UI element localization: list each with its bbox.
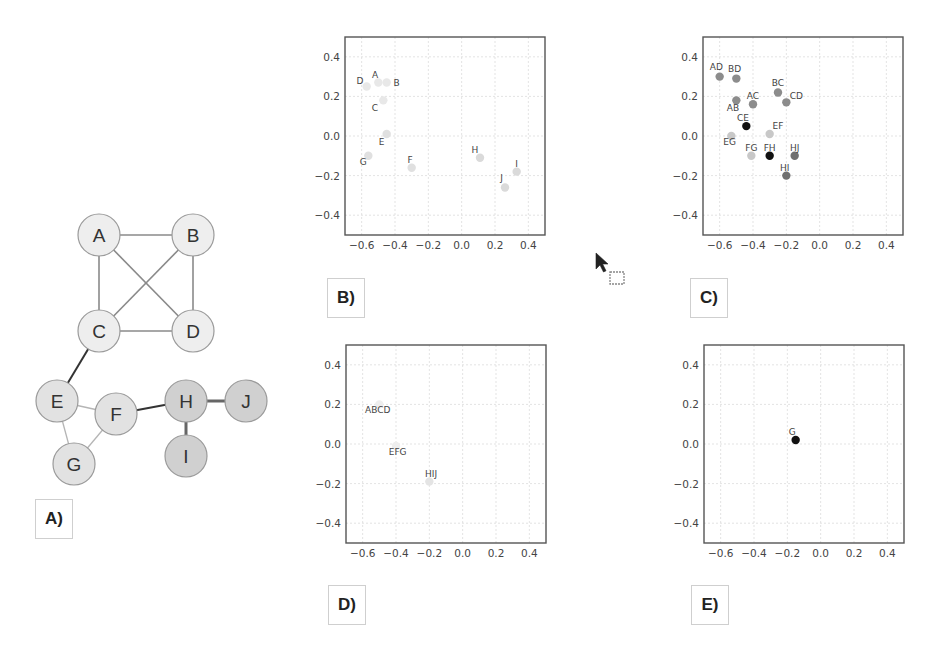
y-tick-label: 0.2 — [323, 90, 340, 102]
graph-node-d: D — [172, 310, 214, 352]
data-point-i: I — [512, 159, 520, 176]
data-point-label: E — [379, 137, 385, 147]
data-point-label: CD — [790, 91, 803, 101]
arrow-cursor-icon — [594, 252, 630, 286]
x-tick-label: −0.4 — [740, 239, 766, 251]
data-point-ac: AC — [747, 91, 759, 108]
data-point-label: EFG — [389, 447, 407, 457]
data-point-label: H — [472, 145, 479, 155]
y-tick-label: 0.0 — [324, 438, 341, 450]
data-point-label: ABCD — [365, 405, 390, 415]
graph-node-label: G — [67, 454, 82, 475]
graph-node-i: I — [165, 435, 207, 477]
data-point-fh: FH — [764, 143, 776, 160]
graph-diagram: ABCDEFGHIJ — [0, 0, 300, 520]
graph-node-label: D — [186, 321, 200, 342]
x-tick-label: 0.0 — [453, 239, 470, 251]
graph-node-g: G — [53, 443, 95, 485]
data-point-g: G — [789, 427, 800, 444]
y-tick-label: 0.0 — [323, 130, 340, 142]
data-point-abcd: ABCD — [365, 400, 390, 415]
x-tick-label: 0.2 — [488, 547, 505, 559]
scatter-plot-b: −0.6−0.4−0.20.00.20.40.40.20.0−0.2−0.4AB… — [290, 25, 560, 265]
data-point-ce: CE — [737, 113, 751, 130]
data-point-hi: HI — [780, 163, 791, 180]
data-point-label: AD — [710, 62, 723, 72]
data-point-b: B — [382, 78, 399, 88]
y-tick-label: 0.4 — [324, 359, 341, 371]
graph-node-label: I — [183, 446, 188, 467]
x-tick-label: 0.4 — [520, 239, 537, 251]
x-tick-label: −0.6 — [350, 547, 376, 559]
data-point-label: G — [360, 157, 367, 167]
data-point-label: I — [515, 159, 518, 169]
x-tick-label: 0.0 — [811, 239, 828, 251]
graph-node-label: A — [93, 225, 106, 246]
x-tick-label: −0.2 — [416, 239, 442, 251]
graph-node-h: H — [165, 380, 207, 422]
data-point-label: J — [499, 173, 503, 183]
graph-node-b: B — [172, 214, 214, 256]
x-tick-label: −0.6 — [349, 239, 375, 251]
graph-node-f: F — [95, 393, 137, 435]
data-point-label: HI — [780, 163, 789, 173]
y-tick-label: 0.0 — [682, 438, 699, 450]
data-point-label: HIJ — [425, 469, 437, 479]
y-tick-label: 0.4 — [682, 359, 699, 371]
x-tick-label: −0.2 — [774, 239, 800, 251]
panel-label-a: A) — [35, 499, 73, 539]
data-point-c: C — [372, 96, 388, 113]
graph-node-j: J — [225, 380, 267, 422]
y-tick-label: −0.4 — [673, 209, 699, 221]
data-point-cd: CD — [782, 91, 803, 106]
data-point-label: AB — [727, 103, 739, 113]
x-tick-label: 0.2 — [846, 547, 863, 559]
panel-label-e: E) — [691, 585, 729, 625]
data-point-j: J — [499, 173, 509, 192]
x-tick-label: 0.4 — [878, 239, 895, 251]
data-point-label: FG — [745, 143, 757, 153]
data-point-ad: AD — [710, 62, 724, 81]
y-tick-label: −0.4 — [316, 517, 342, 529]
scatter-plot-e: −0.6−0.4−0.20.00.20.40.40.20.0−0.2−0.4G — [649, 333, 919, 573]
data-point-label: A — [372, 70, 379, 80]
scatter-plot-c: −0.6−0.4−0.20.00.20.40.40.20.0−0.2−0.4AD… — [648, 25, 918, 265]
data-point-hj: HJ — [790, 143, 799, 160]
x-tick-label: 0.4 — [521, 547, 538, 559]
data-point-label: EF — [773, 121, 784, 131]
data-point-label: CE — [737, 113, 749, 123]
data-point-h: H — [472, 145, 485, 162]
graph-node-c: C — [78, 310, 120, 352]
data-point-label: EG — [723, 137, 736, 147]
data-point-label: HJ — [790, 143, 799, 153]
data-point-label: FH — [764, 143, 776, 153]
x-tick-label: −0.4 — [383, 547, 409, 559]
data-point-label: BD — [728, 64, 741, 74]
data-point-label: AC — [747, 91, 759, 101]
x-tick-label: 0.2 — [845, 239, 862, 251]
data-point-label: BC — [772, 78, 784, 88]
graph-node-label: J — [241, 391, 251, 412]
data-point-label: D — [357, 76, 364, 86]
data-point-d: D — [357, 76, 371, 91]
panel-label-d: D) — [328, 585, 366, 625]
data-point-bc: BC — [772, 78, 784, 97]
data-point-label: C — [372, 103, 378, 113]
data-point-ab: AB — [727, 96, 741, 113]
x-tick-label: −0.4 — [741, 547, 767, 559]
graph-node-e: E — [36, 380, 78, 422]
x-tick-label: 0.4 — [879, 547, 896, 559]
y-tick-label: −0.2 — [315, 170, 341, 182]
data-point-bd: BD — [728, 64, 741, 83]
data-point-a: A — [372, 70, 383, 87]
y-tick-label: 0.2 — [681, 90, 698, 102]
data-point-label: G — [789, 427, 796, 437]
data-point-label: F — [407, 155, 412, 165]
y-tick-label: −0.2 — [673, 170, 699, 182]
x-tick-label: 0.0 — [454, 547, 471, 559]
y-tick-label: 0.0 — [681, 130, 698, 142]
x-tick-label: −0.2 — [775, 547, 801, 559]
graph-node-a: A — [78, 214, 120, 256]
data-point-f: F — [407, 155, 415, 172]
y-tick-label: −0.4 — [674, 517, 700, 529]
